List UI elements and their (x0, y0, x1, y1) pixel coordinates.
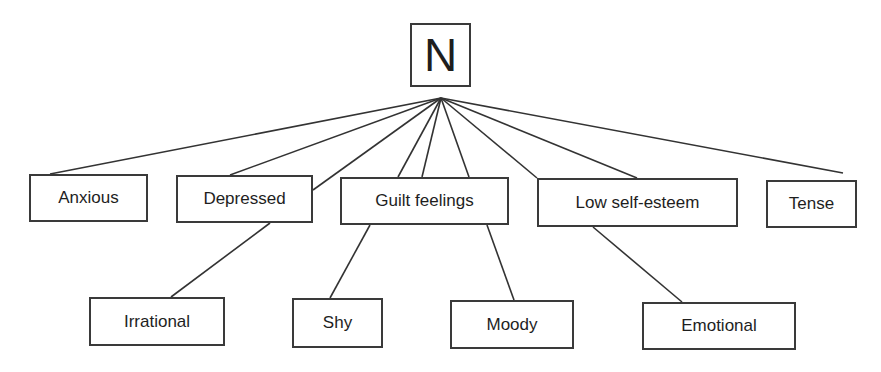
node-label: Guilt feelings (375, 191, 473, 211)
node-low-self-esteem: Low self-esteem (537, 178, 738, 227)
edge-N-lowself (441, 98, 637, 178)
edge-N-tense (441, 98, 843, 173)
node-irrational: Irrational (89, 297, 225, 346)
edge-guilt-shy (330, 225, 370, 298)
edge-N-guilt (398, 98, 441, 177)
node-label: Irrational (124, 312, 190, 332)
node-guilt-feelings: Guilt feelings (340, 177, 509, 225)
node-label: Depressed (203, 189, 285, 209)
node-label: Shy (323, 313, 352, 333)
edge-lowself-emotional (593, 227, 682, 302)
root-label: N (424, 28, 457, 82)
node-moody: Moody (450, 300, 574, 349)
node-anxious: Anxious (29, 174, 148, 222)
node-label: Moody (486, 315, 537, 335)
edge-N-depressed (230, 98, 441, 175)
node-depressed: Depressed (176, 175, 313, 223)
edge-N-anxious (50, 98, 441, 174)
node-label: Anxious (58, 188, 118, 208)
node-label: Low self-esteem (576, 193, 700, 213)
node-shy: Shy (292, 298, 383, 348)
node-emotional: Emotional (642, 302, 796, 350)
root-node-n: N (410, 23, 471, 87)
trait-hierarchy-diagram: N Anxious Depressed Guilt feelings Low s… (0, 0, 881, 372)
edge-depressed-irrational (171, 223, 270, 297)
edge-guilt-moody (487, 225, 514, 300)
node-tense: Tense (766, 180, 857, 228)
node-label: Tense (789, 194, 834, 214)
node-label: Emotional (681, 316, 757, 336)
